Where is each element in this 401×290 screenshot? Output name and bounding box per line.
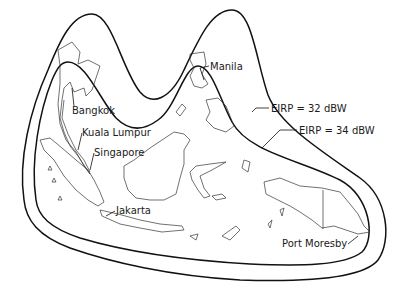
label-eirp-34: EIRP = 34 dBW (299, 125, 375, 136)
label-singapore: Singapore (94, 147, 144, 158)
label-kuala-lumpur: Kuala Lumpur (82, 127, 152, 138)
contour-34dbw (34, 62, 369, 265)
coverage-map: Bangkok Kuala Lumpur Singapore Manila Ja… (0, 0, 401, 290)
label-eirp-32: EIRP = 32 dBW (271, 103, 347, 114)
label-jakarta: Jakarta (115, 205, 151, 216)
label-port-moresby: Port Moresby (282, 238, 347, 249)
coastlines (40, 42, 370, 240)
label-bangkok: Bangkok (72, 105, 115, 116)
label-manila: Manila (210, 61, 243, 72)
city-labels: Bangkok Kuala Lumpur Singapore Manila Ja… (72, 61, 358, 249)
contour-labels: EIRP = 32 dBW EIRP = 34 dBW (252, 103, 375, 148)
